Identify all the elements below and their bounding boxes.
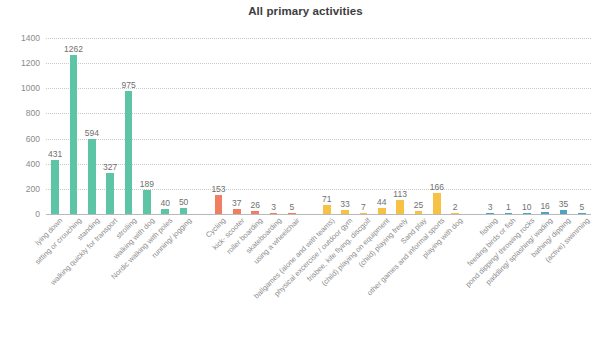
y-axis-tick-label: 600	[26, 134, 40, 144]
bar-value-label: 113	[393, 189, 407, 199]
bar-value-label: 3	[271, 202, 276, 212]
bar-value-label: 44	[377, 197, 386, 207]
bar[interactable]: 431	[51, 160, 59, 214]
bar[interactable]: 35	[560, 210, 568, 214]
y-axis-tick-label: 1400	[21, 33, 40, 43]
bar-value-label: 50	[179, 197, 188, 207]
bar[interactable]: 33	[341, 210, 349, 214]
bar[interactable]: 71	[323, 205, 331, 214]
bar-value-label: 25	[414, 200, 423, 210]
bar-value-label: 431	[48, 149, 62, 159]
bar[interactable]: 975	[125, 91, 133, 214]
bar-value-label: 5	[579, 202, 584, 212]
chart-container: All primary activities 02004006008001000…	[0, 0, 611, 352]
bar[interactable]: 594	[88, 139, 96, 214]
y-axis-tick-label: 400	[26, 159, 40, 169]
bar-value-label: 40	[161, 198, 170, 208]
bar[interactable]: 153	[215, 195, 223, 214]
bar-value-label: 7	[361, 202, 366, 212]
bar-value-label: 35	[559, 199, 568, 209]
y-axis-tick-label: 0	[35, 209, 40, 219]
bar[interactable]: 37	[233, 209, 241, 214]
bar-value-label: 33	[340, 199, 349, 209]
bar[interactable]: 1	[505, 213, 513, 215]
bar[interactable]: 26	[251, 211, 259, 214]
x-axis-line	[46, 214, 591, 215]
bar-value-label: 1	[506, 202, 511, 212]
bar[interactable]: 10	[523, 213, 531, 215]
bar[interactable]: 5	[578, 213, 586, 215]
y-axis-tick-label: 1000	[21, 83, 40, 93]
bar[interactable]: 189	[143, 190, 151, 214]
bar-value-label: 1262	[64, 44, 83, 54]
bar-value-label: 26	[250, 200, 259, 210]
bar-value-label: 189	[140, 179, 154, 189]
bar[interactable]: 50	[180, 208, 188, 214]
bar[interactable]: 1262	[70, 55, 78, 214]
bar[interactable]: 44	[378, 208, 386, 214]
bar[interactable]: 3	[270, 213, 278, 215]
bar[interactable]: 327	[106, 173, 114, 214]
bar-value-label: 327	[103, 162, 117, 172]
bar-value-label: 594	[85, 128, 99, 138]
bar[interactable]: 7	[360, 213, 368, 215]
bar-value-label: 37	[232, 198, 241, 208]
bar-value-label: 71	[322, 194, 331, 204]
bar-value-label: 975	[121, 80, 135, 90]
y-axis-tick-label: 1200	[21, 58, 40, 68]
bar[interactable]: 113	[396, 200, 404, 214]
bar-value-label: 5	[290, 202, 295, 212]
bar-value-label: 10	[522, 202, 531, 212]
bar-value-label: 166	[430, 182, 444, 192]
bar[interactable]: 3	[486, 213, 494, 215]
bar-value-label: 3	[488, 202, 493, 212]
chart-title: All primary activities	[0, 5, 611, 17]
bar-value-label: 16	[540, 201, 549, 211]
bar[interactable]: 5	[288, 213, 296, 215]
y-axis-tick-label: 800	[26, 108, 40, 118]
bar-value-label: 2	[453, 202, 458, 212]
category-labels-layer: lying downsitting or crouchingstandingwa…	[46, 216, 591, 352]
y-axis-tick-label: 200	[26, 184, 40, 194]
bar[interactable]: 16	[541, 212, 549, 214]
bar[interactable]: 2	[451, 213, 459, 215]
bar[interactable]: 25	[415, 211, 423, 214]
bars-layer: 4311262594327975189405015337263571337441…	[46, 38, 591, 214]
bar[interactable]: 166	[433, 193, 441, 214]
bar[interactable]: 40	[161, 209, 169, 214]
bar-value-label: 153	[211, 184, 225, 194]
